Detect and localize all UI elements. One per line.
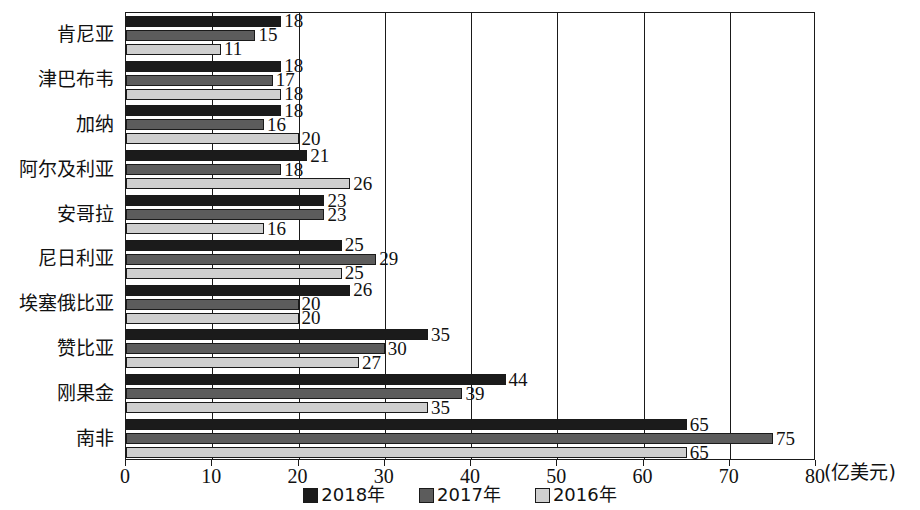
bar-slot: 18 [126, 164, 814, 175]
bar-value-label: 25 [342, 236, 364, 255]
bar-slot: 21 [126, 150, 814, 161]
bar-value-label: 29 [376, 250, 398, 269]
bar[interactable] [126, 164, 281, 175]
bar-slot: 16 [126, 119, 814, 130]
bar[interactable] [126, 223, 264, 234]
bar-slot: 39 [126, 388, 814, 399]
bar[interactable] [126, 357, 359, 368]
bar-value-label: 44 [506, 370, 528, 389]
bar[interactable] [126, 119, 264, 130]
bar[interactable] [126, 433, 773, 444]
bar[interactable] [126, 178, 350, 189]
bar[interactable] [126, 195, 324, 206]
bar[interactable] [126, 150, 307, 161]
category-label: 刚果金 [57, 383, 114, 402]
legend-item-2018年[interactable]: 2018年 [303, 486, 385, 504]
bar-slot: 65 [126, 419, 814, 430]
bar-value-label: 35 [428, 398, 450, 417]
category-label: 安哥拉 [57, 204, 114, 223]
category-label: 埃塞俄比亚 [19, 294, 114, 313]
bar-slot: 26 [126, 178, 814, 189]
axis-tick-label: 30 [374, 466, 394, 486]
bar-group: 657565 [126, 416, 814, 461]
bar-slot: 17 [126, 75, 814, 86]
bar-slot: 25 [126, 268, 814, 279]
bar[interactable] [126, 268, 342, 279]
category-axis-labels: 肯尼亚津巴布韦加纳阿尔及利亚安哥拉尼日利亚埃塞俄比亚赞比亚刚果金南非 [0, 12, 120, 460]
bar-slot: 29 [126, 254, 814, 265]
bar-group: 232316 [126, 192, 814, 237]
axis-tick-label: 80 [805, 466, 825, 486]
axis-tick-label: 40 [460, 466, 480, 486]
legend-label: 2018年 [321, 486, 385, 504]
bar-group: 181511 [126, 13, 814, 58]
bar-slot: 65 [126, 447, 814, 458]
bar-slot: 35 [126, 402, 814, 413]
bar-slot: 35 [126, 329, 814, 340]
bar-value-label: 39 [462, 384, 484, 403]
bar-value-label: 35 [428, 325, 450, 344]
bar-slot: 18 [126, 61, 814, 72]
bar-value-label: 20 [299, 308, 321, 327]
bar-slot: 11 [126, 44, 814, 55]
bar-slot: 75 [126, 433, 814, 444]
bar-value-label: 21 [307, 146, 329, 165]
bar[interactable] [126, 133, 299, 144]
legend-item-2017年[interactable]: 2017年 [419, 486, 501, 504]
bar-slot: 27 [126, 357, 814, 368]
axis-tick-label: 60 [633, 466, 653, 486]
bar-slot: 20 [126, 313, 814, 324]
category-label: 尼日利亚 [38, 249, 114, 268]
bar-value-label: 18 [281, 160, 303, 179]
legend-swatch-icon [535, 488, 550, 503]
bar-group: 211826 [126, 147, 814, 192]
bar-slot: 26 [126, 285, 814, 296]
bar[interactable] [126, 329, 428, 340]
legend-swatch-icon [303, 488, 318, 503]
bar[interactable] [126, 240, 342, 251]
bar[interactable] [126, 374, 506, 385]
bar-value-label: 26 [350, 174, 372, 193]
bar[interactable] [126, 299, 299, 310]
bar-rows: 1815111817181816202118262323162529252620… [126, 13, 814, 459]
category-label: 南非 [76, 428, 114, 447]
bar[interactable] [126, 89, 281, 100]
category-label: 阿尔及利亚 [19, 159, 114, 178]
bar[interactable] [126, 44, 221, 55]
bar-group: 252925 [126, 237, 814, 282]
bar-group: 353027 [126, 327, 814, 372]
bar[interactable] [126, 61, 281, 72]
legend-label: 2017年 [437, 486, 501, 504]
bar[interactable] [126, 419, 687, 430]
bar[interactable] [126, 402, 428, 413]
bar[interactable] [126, 388, 462, 399]
bar[interactable] [126, 447, 687, 458]
bar-slot: 20 [126, 299, 814, 310]
bar-slot: 20 [126, 133, 814, 144]
axis-tick-label: 70 [719, 466, 739, 486]
category-label: 肯尼亚 [57, 25, 114, 44]
axis-tick-label: 0 [120, 466, 130, 486]
bar[interactable] [126, 75, 273, 86]
bar-value-label: 16 [264, 219, 286, 238]
bar-chart: 肯尼亚津巴布韦加纳阿尔及利亚安哥拉尼日利亚埃塞俄比亚赞比亚刚果金南非 18151… [0, 0, 920, 510]
bar-slot: 25 [126, 240, 814, 251]
bar[interactable] [126, 209, 324, 220]
bar[interactable] [126, 254, 376, 265]
bar-value-label: 23 [324, 205, 346, 224]
category-label: 加纳 [76, 115, 114, 134]
bar[interactable] [126, 105, 281, 116]
bar-value-label: 65 [687, 443, 709, 462]
legend-item-2016年[interactable]: 2016年 [535, 486, 617, 504]
bar-slot: 18 [126, 16, 814, 27]
bar-group: 262020 [126, 282, 814, 327]
bar[interactable] [126, 313, 299, 324]
bar[interactable] [126, 343, 385, 354]
bar-group: 181620 [126, 103, 814, 148]
bar-slot: 18 [126, 89, 814, 100]
bar-value-label: 65 [687, 415, 709, 434]
bar-value-label: 18 [281, 12, 303, 31]
bar-group: 443935 [126, 371, 814, 416]
axis-unit-label: (亿美元) [824, 463, 896, 482]
legend-swatch-icon [419, 488, 434, 503]
